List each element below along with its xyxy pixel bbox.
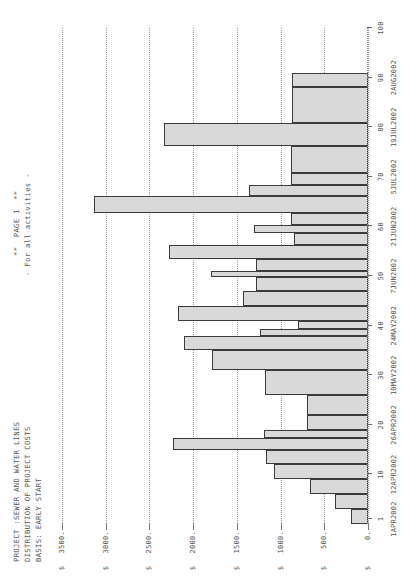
category-date-label: 19JUL2002 — [390, 107, 398, 147]
category-tick — [367, 374, 372, 375]
category-date-label: 5JUL2002 — [390, 159, 398, 194]
bar — [254, 225, 368, 233]
value-tick — [237, 524, 238, 530]
project-title: PROJECT :SEWER AND WATER LINES — [12, 422, 21, 562]
category-tick-label: 60 — [377, 222, 385, 231]
bar — [291, 173, 368, 185]
category-date-label: 10MAY2002 — [390, 355, 398, 395]
basis-label: BASIS: EARLY START — [34, 478, 43, 562]
category-tick — [367, 225, 372, 226]
category-date-label: 12APR2002 — [390, 455, 398, 495]
bar — [298, 321, 368, 329]
bar — [164, 123, 368, 146]
bar — [173, 438, 368, 450]
category-tick — [367, 126, 372, 127]
bar — [294, 233, 368, 245]
bar — [211, 271, 368, 277]
category-tick — [367, 473, 372, 474]
bar — [212, 350, 368, 370]
value-tick — [281, 524, 282, 530]
value-tick — [106, 524, 107, 530]
bar — [310, 479, 368, 494]
category-tick-label: 30 — [377, 371, 385, 380]
value-tick-label: 2500. — [145, 531, 153, 554]
currency-symbol: $ — [145, 566, 153, 570]
scope-label: - For all activities - — [23, 173, 32, 276]
category-tick-label: 1 — [377, 517, 385, 522]
currency-symbol: $ — [233, 566, 241, 570]
bar — [178, 306, 368, 321]
bar — [351, 509, 368, 524]
currency-symbol: $ — [189, 566, 197, 570]
category-date-label: 7JUN2002 — [390, 258, 398, 293]
bar — [184, 336, 368, 350]
category-tick — [367, 27, 372, 28]
value-tick-label: 1000. — [277, 531, 285, 554]
value-gridline — [368, 28, 369, 524]
category-tick — [367, 518, 372, 519]
bar — [94, 196, 368, 213]
bar — [256, 278, 368, 291]
bar — [169, 245, 368, 258]
value-gridline — [149, 28, 150, 524]
category-tick — [367, 325, 372, 326]
category-tick-label: 40 — [377, 321, 385, 330]
value-tick — [324, 524, 325, 530]
bar — [291, 146, 368, 173]
page-label: ** PAGE 1 ** — [12, 191, 21, 256]
report-title: DISTRIBUTION OF PROJECT COSTS — [23, 426, 32, 562]
currency-symbol: $ — [277, 566, 285, 570]
value-tick — [62, 524, 63, 530]
value-tick-label: 500. — [320, 531, 328, 549]
category-date-label: 26APR2002 — [390, 405, 398, 445]
plot-area: 0.$500.$1000.$1500.$2000.$2500.$3000.$35… — [62, 28, 368, 524]
category-tick-label: 80 — [377, 123, 385, 132]
currency-symbol: $ — [58, 566, 66, 570]
bar — [264, 430, 368, 438]
bar — [292, 87, 368, 124]
bar — [335, 494, 368, 509]
bar — [307, 395, 368, 415]
category-tick-label: 90 — [377, 73, 385, 82]
chart-page: PROJECT :SEWER AND WATER LINES DISTRIBUT… — [0, 0, 402, 576]
category-tick-label: 100 — [377, 21, 385, 35]
bar — [265, 370, 368, 395]
category-tick — [367, 77, 372, 78]
category-date-label: 24MAY2002 — [390, 306, 398, 346]
bar — [243, 291, 368, 306]
category-tick — [367, 275, 372, 276]
value-tick-label: 3000. — [102, 531, 110, 554]
value-tick — [368, 524, 369, 530]
category-date-label: 21JUN2002 — [390, 207, 398, 247]
bar — [307, 415, 368, 430]
value-tick-label: 3500. — [58, 531, 66, 554]
category-tick — [367, 424, 372, 425]
bar — [292, 73, 368, 87]
bar — [260, 329, 368, 336]
value-tick-label: 1500. — [233, 531, 241, 554]
value-tick — [193, 524, 194, 530]
category-date-label: 1APR2002 — [390, 501, 398, 536]
category-tick-label: 10 — [377, 470, 385, 479]
value-gridline — [62, 28, 63, 524]
currency-symbol: $ — [364, 566, 372, 570]
value-gridline — [106, 28, 107, 524]
bar — [274, 465, 368, 480]
currency-symbol: $ — [320, 566, 328, 570]
report-sheet: PROJECT :SEWER AND WATER LINES DISTRIBUT… — [0, 0, 402, 576]
category-tick-label: 20 — [377, 420, 385, 429]
value-tick-label: 2000. — [189, 531, 197, 554]
category-tick-label: 70 — [377, 172, 385, 181]
bar — [249, 185, 368, 196]
category-tick — [367, 176, 372, 177]
bar — [256, 259, 368, 271]
bar — [266, 450, 368, 465]
value-tick — [149, 524, 150, 530]
currency-symbol: $ — [102, 566, 110, 570]
category-tick-label: 50 — [377, 271, 385, 280]
bar — [291, 213, 368, 226]
category-axis-line — [367, 28, 368, 524]
value-tick-label: 0. — [364, 531, 372, 540]
category-date-label: 2AUG2002 — [390, 60, 398, 95]
